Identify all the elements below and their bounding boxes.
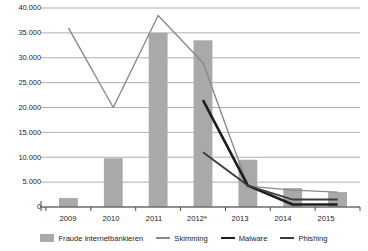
legend-line-swatch-icon	[280, 237, 294, 239]
bar-series-fraude-internetbankieren	[59, 33, 347, 207]
legend-line-swatch-icon	[221, 237, 235, 240]
x-axis-tick-label: 2009	[60, 214, 77, 224]
plot-area	[0, 0, 368, 215]
x-axis-labels: 2009 2010 2011 2012* 2013 2014 2015	[0, 207, 368, 227]
chart-legend: Fraude internetbankieren Skimming Malwar…	[0, 228, 368, 248]
legend-label: Fraude internetbankieren	[58, 234, 143, 243]
legend-bar-swatch-icon	[40, 234, 54, 242]
x-axis-tick-label: 2014	[275, 214, 292, 224]
legend-item-skimming[interactable]: Skimming	[156, 234, 207, 243]
x-axis-tick-label: 2015	[318, 214, 335, 224]
legend-item-phishing[interactable]: Phishing	[280, 234, 327, 243]
legend-item-fraude-internetbankieren[interactable]: Fraude internetbankieren	[40, 234, 143, 243]
legend-line-swatch-icon	[156, 237, 170, 238]
legend-item-malware[interactable]: Malware	[221, 234, 268, 243]
x-axis-tick-label: 2010	[103, 214, 120, 224]
chart-container: 40.000 35.000 30.000 25.000 20.000 15.00…	[0, 0, 368, 251]
legend-label: Malware	[239, 234, 268, 243]
x-axis-tick-label: 2013	[232, 214, 249, 224]
legend-label: Skimming	[174, 234, 207, 243]
legend-label: Phishing	[298, 234, 327, 243]
x-axis-tick-label: 2012*	[187, 214, 207, 224]
chart-svg	[0, 0, 368, 215]
x-axis-tick-label: 2011	[146, 214, 162, 224]
